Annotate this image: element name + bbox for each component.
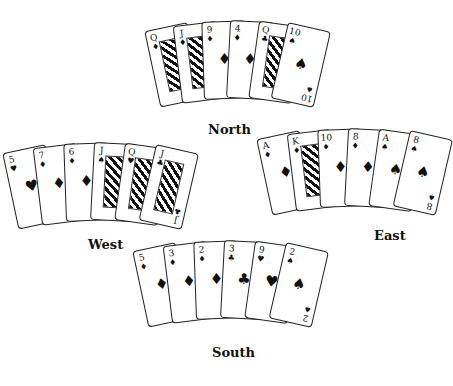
card-index: 2♠ [284,247,298,267]
south-hand: 5♦5♦♦3♦3♦♦2♦2♦♦3♣3♣♣9♥9♥♥2♠2♠♠ [148,240,318,335]
card-index: 10♠ [286,27,300,47]
card-index: A♦ [260,140,274,160]
card-index: 10♦ [320,133,331,151]
card-index: 8♠ [424,192,438,212]
card-index: 2♦ [196,245,207,263]
card-index: 10♠ [302,84,316,104]
card-index: 5♥ [6,154,20,174]
card-index: 4♦ [232,24,243,42]
card-index: 3♣ [226,244,237,262]
south-label: South [212,345,255,360]
suit-pip-icon: ♠ [290,274,307,295]
card-index: 3♦ [166,248,178,267]
north-label: North [208,122,251,137]
card-index: 6♦ [66,147,77,165]
card-index: A♠ [379,133,391,152]
suit-pip-icon: ♠ [414,162,431,183]
card-index: 2♠ [300,304,314,324]
suit-pip-icon: ♠ [292,54,309,75]
east-label: East [374,228,406,243]
card-index: 9♦ [204,25,215,43]
card-index: 7♦ [36,150,48,169]
card-index: 5♦ [136,252,150,272]
east-hand: A♦A♦♦K♦K♦10♦10♦♦8♦8♦♦A♠A♠♠8♠8♠♠ [272,128,442,223]
card-index: 8♠ [408,135,422,155]
west-label: West [88,237,123,252]
north-hand: Q♦Q♦J♦J♦9♦9♦♦4♦4♦♦Q♣Q♣10♠10♠♠ [160,20,310,115]
card-index: 9♥ [255,245,267,264]
west-hand: 5♥5♥♥7♦7♦♦6♦6♦♦J♠J♠Q♥Q♥J♣J♣ [18,142,188,237]
card-index: 8♦ [350,132,361,150]
